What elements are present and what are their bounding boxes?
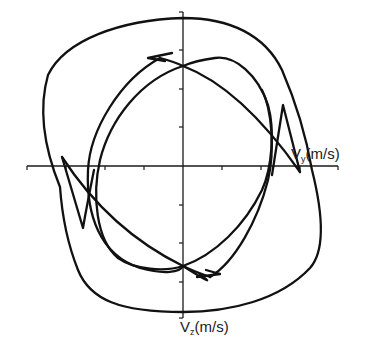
x-axis-label-unit: (m/s) (306, 145, 340, 162)
y-axis-label: Vz(m/s) (180, 318, 229, 337)
y-axis-label-unit: (m/s) (195, 318, 229, 335)
axes (27, 12, 338, 318)
phase-plot (0, 0, 381, 360)
x-axis-label-prefix: V (291, 145, 301, 162)
inner-loop-inner (96, 66, 272, 280)
diagonal-branch-right (160, 58, 300, 172)
y-axis-label-prefix: V (180, 318, 190, 335)
trajectory (43, 18, 320, 312)
x-axis-label: Vy(m/s) (291, 145, 340, 164)
